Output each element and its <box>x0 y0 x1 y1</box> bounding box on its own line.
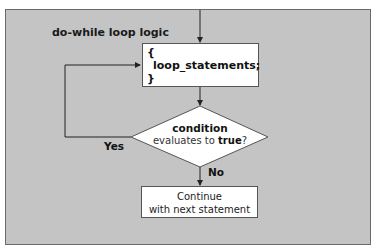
decision-condition: condition <box>131 122 269 134</box>
loop-body-box: { loop_statements; } <box>142 43 259 87</box>
decision-eval-suffix: ? <box>242 135 247 146</box>
yes-label: Yes <box>104 140 124 152</box>
continue-line2: with next statement <box>142 203 257 216</box>
yes-loop-back-arrow <box>65 65 140 137</box>
continue-box: Continue with next statement <box>141 186 258 218</box>
continue-line1: Continue <box>142 190 257 203</box>
open-brace: { <box>147 46 258 59</box>
decision-evaluation: evaluates to true? <box>131 135 269 146</box>
loop-statement: loop_statements; <box>147 59 258 72</box>
decision-eval-true: true <box>218 135 242 146</box>
close-brace: } <box>147 72 258 85</box>
diagram-title: do-while loop logic <box>52 26 169 39</box>
decision-eval-prefix: evaluates to <box>153 135 218 146</box>
no-label: No <box>208 166 224 178</box>
